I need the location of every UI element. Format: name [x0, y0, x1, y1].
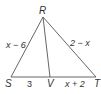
- vertex-label-s: S: [5, 78, 12, 89]
- side-label-rt: 2 − x: [69, 38, 90, 48]
- vertex-label-v: V: [47, 78, 55, 89]
- side-label-sv: 3: [27, 79, 32, 89]
- vertex-label-r: R: [39, 5, 46, 16]
- side-label-vt: x + 2: [64, 79, 85, 89]
- vertex-label-t: T: [94, 78, 101, 89]
- side-label-rs: x − 6: [5, 40, 26, 50]
- triangle-diagram: R S V T x − 6 2 − x 3 x + 2: [0, 0, 101, 94]
- segment-rv: [43, 17, 50, 77]
